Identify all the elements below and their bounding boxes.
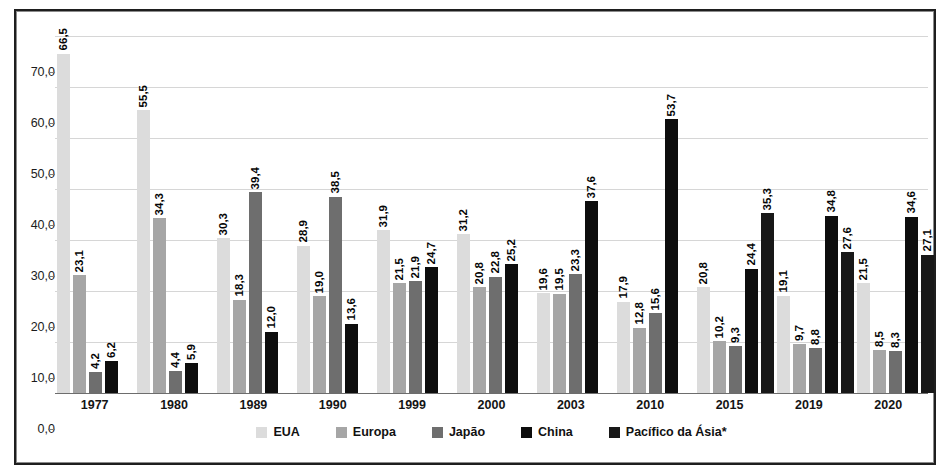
bar-group: 17,912,815,653,7	[615, 36, 695, 393]
bar-value-label: 34,6	[905, 191, 917, 213]
bar[interactable]: 55,5	[137, 110, 150, 393]
bar-group: 28,919,038,513,6	[295, 36, 375, 393]
bar-value-label: 10,2	[713, 316, 725, 338]
bar[interactable]: 6,2	[105, 361, 118, 393]
bar-value-label: 8,5	[873, 331, 885, 347]
bar[interactable]: 24,4	[745, 269, 758, 393]
bar-slot: 9,3	[729, 36, 742, 393]
x-axis-tick-label: 1999	[372, 393, 451, 417]
bar[interactable]: 17,9	[617, 302, 630, 393]
bar[interactable]: 13,6	[345, 324, 358, 393]
bar[interactable]: 15,6	[649, 313, 662, 393]
bar[interactable]: 30,3	[217, 238, 230, 393]
bar-slot: 15,6	[649, 36, 662, 393]
bar[interactable]: 12,0	[265, 332, 278, 393]
legend-item[interactable]: Pacífico da Ásia*	[609, 425, 727, 439]
legend-label: Europa	[353, 425, 396, 439]
legend-item[interactable]: EUA	[256, 425, 299, 439]
bar[interactable]: 34,6	[905, 217, 918, 393]
bar-slot: 37,6	[585, 36, 598, 393]
bar[interactable]: 66,5	[57, 54, 70, 393]
bar-group: 30,318,339,412,0	[215, 36, 295, 393]
bar[interactable]: 19,0	[313, 296, 326, 393]
bar[interactable]: 21,5	[393, 283, 406, 393]
bar-group: 19,19,78,834,827,6	[775, 36, 855, 393]
bar[interactable]: 31,2	[457, 234, 470, 393]
bar[interactable]: 20,8	[473, 287, 486, 393]
bar-slot	[121, 36, 134, 393]
bar-slot: 12,8	[633, 36, 646, 393]
bar-slot: 13,6	[345, 36, 358, 393]
bar-slot: 19,0	[313, 36, 326, 393]
bar[interactable]: 12,8	[633, 328, 646, 393]
bar[interactable]: 39,4	[249, 192, 262, 393]
bar-value-label: 9,7	[793, 325, 805, 341]
bar-value-label: 55,5	[137, 85, 149, 107]
plot-area: 66,523,14,26,255,534,34,45,930,318,339,4…	[55, 36, 928, 393]
x-axis-tick-label: 2000	[452, 393, 531, 417]
legend-item[interactable]: China	[521, 425, 573, 439]
y-axis-tick-mark	[48, 276, 55, 277]
bar[interactable]: 5,9	[185, 363, 198, 393]
bar[interactable]: 37,6	[585, 201, 598, 393]
bar[interactable]: 31,9	[377, 230, 390, 393]
x-axis-tick-label: 1990	[293, 393, 372, 417]
bar-slot: 4,4	[169, 36, 182, 393]
bar[interactable]: 19,5	[553, 294, 566, 393]
bar[interactable]: 21,5	[857, 283, 870, 393]
bar-value-label: 34,3	[153, 193, 165, 215]
bar-slot: 31,2	[457, 36, 470, 393]
bar[interactable]: 9,3	[729, 346, 742, 393]
bar[interactable]: 25,2	[505, 264, 518, 393]
legend-label: Pacífico da Ásia*	[626, 425, 727, 439]
bar[interactable]: 53,7	[665, 119, 678, 393]
bar-slot: 24,7	[425, 36, 438, 393]
bar-value-label: 28,9	[297, 220, 309, 242]
x-axis-tick-label: 1989	[214, 393, 293, 417]
bar[interactable]: 38,5	[329, 197, 342, 393]
bar[interactable]: 24,7	[425, 267, 438, 393]
bar[interactable]: 8,3	[889, 351, 902, 393]
bar-group: 19,619,523,337,6	[535, 36, 615, 393]
bar[interactable]: 8,8	[809, 348, 822, 393]
bar-value-label: 13,6	[345, 298, 357, 320]
bar-value-label: 18,3	[233, 274, 245, 296]
bar-group: 66,523,14,26,2	[55, 36, 135, 393]
y-axis-tick-mark	[48, 174, 55, 175]
bar-value-label: 66,5	[57, 28, 69, 50]
bar-slot: 35,3	[761, 36, 774, 393]
bar[interactable]: 19,6	[537, 293, 550, 393]
bar-value-label: 12,8	[633, 302, 645, 324]
bar[interactable]: 20,8	[697, 287, 710, 393]
bar[interactable]: 35,3	[761, 213, 774, 393]
bar-value-label: 27,1	[921, 229, 933, 251]
x-axis-tick-label: 2010	[611, 393, 690, 417]
bar-slot: 53,7	[665, 36, 678, 393]
bar-value-label: 9,3	[729, 327, 741, 343]
bar[interactable]: 34,3	[153, 218, 166, 393]
bar-value-label: 4,4	[169, 352, 181, 368]
bar-value-label: 35,3	[761, 188, 773, 210]
bar-value-label: 20,8	[697, 262, 709, 284]
bar[interactable]: 9,7	[793, 344, 806, 393]
bar[interactable]: 10,2	[713, 341, 726, 393]
bar[interactable]: 21,9	[409, 281, 422, 393]
bar[interactable]: 27,1	[921, 255, 934, 393]
bar[interactable]: 4,2	[89, 372, 102, 393]
bar[interactable]: 22,8	[489, 277, 502, 393]
bar[interactable]: 28,9	[297, 246, 310, 393]
bar[interactable]: 23,3	[569, 274, 582, 393]
bar[interactable]: 18,3	[233, 300, 246, 393]
y-axis-tick-mark	[48, 429, 55, 430]
legend-item[interactable]: Japão	[432, 425, 485, 439]
bar[interactable]: 27,6	[841, 252, 854, 393]
bar[interactable]: 19,1	[777, 296, 790, 393]
bar[interactable]: 34,8	[825, 216, 838, 393]
bar-slot: 19,6	[537, 36, 550, 393]
bar-value-label: 39,4	[249, 167, 261, 189]
bar[interactable]: 4,4	[169, 371, 182, 393]
bar[interactable]: 23,1	[73, 275, 86, 393]
bar-slot: 20,8	[473, 36, 486, 393]
bar[interactable]: 8,5	[873, 350, 886, 393]
legend-item[interactable]: Europa	[336, 425, 396, 439]
